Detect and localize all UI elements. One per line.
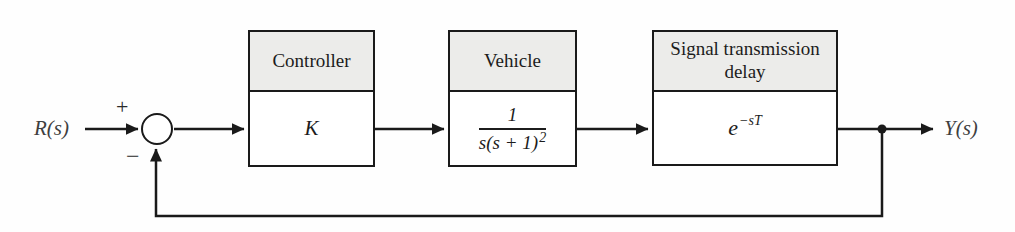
input-signal-label: R(s) xyxy=(34,116,69,141)
output-signal-label: Y(s) xyxy=(944,116,978,141)
fraction-denominator: s(s + 1)2 xyxy=(479,130,546,154)
summing-junction xyxy=(142,114,172,144)
fraction-numerator: 1 xyxy=(479,104,546,130)
exponential-exponent: −sT xyxy=(739,113,762,129)
delay-block: Signal transmission delay e−sT xyxy=(652,30,838,166)
controller-title: Controller xyxy=(250,32,373,92)
denominator-base: s(s + 1) xyxy=(479,132,538,153)
controller-block: Controller K xyxy=(248,30,375,167)
vehicle-block: Vehicle 1 s(s + 1)2 xyxy=(448,30,577,167)
vehicle-expression: 1 s(s + 1)2 xyxy=(450,92,575,165)
denominator-exponent: 2 xyxy=(539,130,546,145)
block-diagram: R(s) Y(s) + − Controller K Vehicle 1 s(s… xyxy=(0,0,1015,232)
controller-expression: K xyxy=(250,92,373,165)
delay-title: Signal transmission delay xyxy=(654,32,836,92)
vehicle-title: Vehicle xyxy=(450,32,575,92)
exponential-base: e xyxy=(728,115,738,141)
minus-sign: − xyxy=(126,143,140,170)
delay-expression: e−sT xyxy=(654,92,836,164)
transfer-function-fraction: 1 s(s + 1)2 xyxy=(479,104,546,154)
plus-sign: + xyxy=(116,94,128,120)
